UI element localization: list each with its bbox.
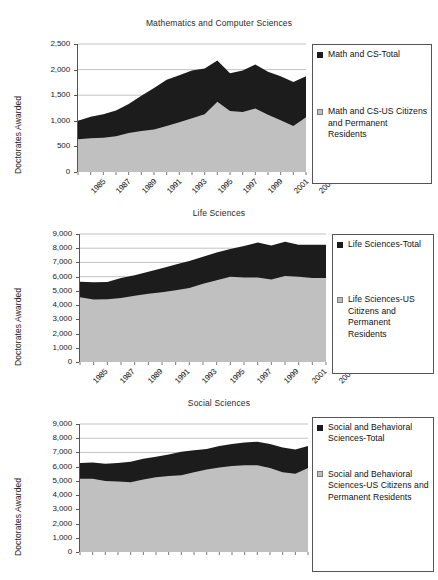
x-axis-tick-label: 1987 <box>114 177 132 195</box>
chart-legend: Social and Behavioral Sciences-TotalSoci… <box>312 417 434 572</box>
y-axis-tick-label: 6,000 <box>52 463 72 471</box>
legend-swatch-total-icon <box>317 425 323 431</box>
charts-page: Mathematics and Computer Sciences Doctor… <box>0 0 438 580</box>
legend-entry[interactable]: Social and Behavioral Sciences-US Citize… <box>317 469 430 503</box>
legend-entry[interactable]: Math and CS-Total <box>317 49 428 60</box>
y-axis-tick-mark <box>76 509 79 510</box>
chart-body: Doctorates Awarded 9,0008,0007,0006,0005… <box>0 409 438 580</box>
y-axis-tick-label: 1,000 <box>50 117 70 125</box>
y-axis-tick-label: 8,000 <box>52 434 72 442</box>
y-axis-tick-label: 500 <box>57 142 70 150</box>
x-axis-tick-label: 1991 <box>173 367 191 385</box>
y-axis-tick-mark <box>76 524 79 525</box>
y-axis-tick-label: 3,000 <box>52 505 72 513</box>
x-axis-tick-label: 1989 <box>146 367 164 385</box>
y-axis-tick-mark <box>76 305 79 306</box>
y-axis-tick-label: 9,000 <box>52 420 72 428</box>
x-axis-tick-label: 1995 <box>228 367 246 385</box>
x-axis-tick-label: 1995 <box>216 177 234 195</box>
chart-mathematics-and-computer-sciences: Mathematics and Computer Sciences Doctor… <box>0 18 438 199</box>
y-axis-tick-label: 8,000 <box>52 244 72 252</box>
y-axis-tick-label: 0 <box>66 168 70 176</box>
y-axis-tick-labels: 2,5002,0001,5001,0005000 <box>20 29 70 169</box>
x-axis-tick-label: 2001 <box>310 367 328 385</box>
y-axis-tick-mark <box>74 172 77 173</box>
y-axis-tick-mark <box>76 334 79 335</box>
x-axis-tick-label: 1999 <box>282 367 300 385</box>
legend-label: Life Sciences-US Citizens and Permanent … <box>348 294 415 338</box>
y-axis-tick-label: 2,500 <box>50 40 70 48</box>
legend-label: Social and Behavioral Sciences-Total <box>328 422 412 443</box>
area-chart-svg <box>80 424 308 556</box>
x-axis-tick-label: 1993 <box>200 367 218 385</box>
y-axis-tick-mark <box>76 348 79 349</box>
legend-label: Social and Behavioral Sciences-US Citize… <box>328 469 429 502</box>
y-axis-tick-mark <box>76 248 79 249</box>
area-chart-svg <box>78 44 306 176</box>
y-axis-tick-label: 3,000 <box>52 315 72 323</box>
legend-label: Math and CS-US Citizens and Permanent Re… <box>328 106 427 139</box>
y-axis-tick-mark <box>76 277 79 278</box>
y-axis-tick-mark <box>76 452 79 453</box>
area-chart-svg <box>80 234 326 366</box>
legend-swatch-total-icon <box>317 52 323 58</box>
legend-entry[interactable]: Social and Behavioral Sciences-Total <box>317 422 430 445</box>
y-axis-tick-mark <box>74 95 77 96</box>
y-axis-tick-label: 1,000 <box>52 344 72 352</box>
y-axis-tick-mark <box>74 146 77 147</box>
plot-area <box>79 234 325 362</box>
legend-entry[interactable]: Life Sciences-US Citizens and Permanent … <box>337 294 430 340</box>
y-axis-tick-label: 1,000 <box>52 534 72 542</box>
chart-legend: Math and CS-TotalMath and CS-US Citizens… <box>312 44 432 184</box>
chart-body: Doctorates Awarded 9,0008,0007,0006,0005… <box>0 219 438 391</box>
y-axis-tick-label: 0 <box>68 548 72 556</box>
legend-swatch-us-citizens-icon <box>317 471 323 477</box>
y-axis-tick-labels: 9,0008,0007,0006,0005,0004,0003,0002,000… <box>20 409 72 549</box>
x-axis-tick-label: 1999 <box>266 177 284 195</box>
plot-area <box>77 44 305 172</box>
y-axis-tick-mark <box>74 121 77 122</box>
legend-entry[interactable]: Life Sciences-Total <box>337 239 430 250</box>
y-axis-tick-label: 2,000 <box>50 66 70 74</box>
y-axis-tick-label: 0 <box>68 358 72 366</box>
y-axis-tick-label: 9,000 <box>52 230 72 238</box>
y-axis-tick-labels: 9,0008,0007,0006,0005,0004,0003,0002,000… <box>20 219 72 359</box>
y-axis-tick-label: 4,000 <box>52 491 72 499</box>
y-axis-tick-mark <box>74 44 77 45</box>
chart-title: Life Sciences <box>0 208 438 219</box>
chart-title: Social Sciences <box>0 398 438 409</box>
legend-swatch-total-icon <box>337 242 343 248</box>
x-axis-tick-label: 2001 <box>292 177 310 195</box>
x-axis-tick-label: 1985 <box>89 177 107 195</box>
x-axis-tick-label: 1985 <box>91 367 109 385</box>
y-axis-tick-mark <box>76 234 79 235</box>
y-axis-tick-label: 2,000 <box>52 330 72 338</box>
y-axis-tick-mark <box>76 552 79 553</box>
legend-entry[interactable]: Math and CS-US Citizens and Permanent Re… <box>317 106 428 140</box>
chart-title: Mathematics and Computer Sciences <box>0 18 438 29</box>
legend-swatch-us-citizens-icon <box>317 109 323 115</box>
y-axis-tick-mark <box>76 291 79 292</box>
y-axis-tick-label: 6,000 <box>52 273 72 281</box>
y-axis-tick-label: 7,000 <box>52 258 72 266</box>
y-axis-tick-label: 1,500 <box>50 91 70 99</box>
chart-legend: Life Sciences-TotalLife Sciences-US Citi… <box>332 234 434 374</box>
y-axis-tick-label: 7,000 <box>52 448 72 456</box>
y-axis-tick-mark <box>76 538 79 539</box>
chart-body: Doctorates Awarded 2,5002,0001,5001,0005… <box>0 29 438 199</box>
y-axis-tick-mark <box>76 262 79 263</box>
y-axis-tick-label: 2,000 <box>52 520 72 528</box>
y-axis-tick-label: 4,000 <box>52 301 72 309</box>
y-axis-tick-mark <box>76 467 79 468</box>
y-axis-tick-mark <box>76 362 79 363</box>
x-axis-tick-label: 1997 <box>255 367 273 385</box>
y-axis-tick-label: 5,000 <box>52 287 72 295</box>
x-axis-tick-label: 1987 <box>118 367 136 385</box>
y-axis-tick-mark <box>76 438 79 439</box>
legend-label: Math and CS-Total <box>328 49 400 59</box>
y-axis-tick-mark <box>74 70 77 71</box>
legend-label: Life Sciences-Total <box>348 239 421 249</box>
y-axis-tick-mark <box>76 319 79 320</box>
plot-area <box>79 424 307 552</box>
legend-swatch-us-citizens-icon <box>337 297 343 303</box>
